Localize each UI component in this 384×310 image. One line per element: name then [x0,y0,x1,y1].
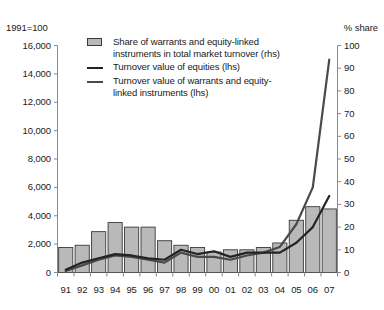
left-tick-label: 16,000 [5,40,51,51]
right-tick-label: 20 [344,221,384,232]
x-tick-label-07: 07 [317,284,341,295]
right-tick-label: 50 [344,153,384,164]
bar-series-group [59,207,337,273]
bar-95 [125,227,139,272]
right-tick-label: 40 [344,176,384,187]
left-tick-label: 4,000 [5,210,51,221]
right-tick-label: 70 [344,108,384,119]
plot-area [0,0,384,310]
bar-92 [75,245,89,272]
bar-00 [207,252,221,272]
left-tick-label: 12,000 [5,96,51,107]
bar-99 [190,248,204,273]
left-tick-label: 6,000 [5,181,51,192]
plot-svg [0,0,384,310]
chart-figure: 1991=100 % share Share of warrants and e… [0,0,384,310]
left-tick-label: 0 [5,267,51,278]
right-tick-label: 0 [344,267,384,278]
left-tick-label: 10,000 [5,125,51,136]
right-tick-label: 80 [344,85,384,96]
bar-93 [92,232,106,273]
left-tick-label: 8,000 [5,153,51,164]
right-tick-label: 60 [344,130,384,141]
left-tick-label: 14,000 [5,68,51,79]
bar-07 [322,209,336,273]
right-tick-label: 90 [344,62,384,73]
bar-01 [223,250,237,273]
left-tick-label: 2,000 [5,238,51,249]
right-tick-label: 100 [344,40,384,51]
bar-94 [108,223,122,273]
right-tick-label: 10 [344,244,384,255]
bar-96 [141,227,155,272]
right-tick-label: 30 [344,198,384,209]
